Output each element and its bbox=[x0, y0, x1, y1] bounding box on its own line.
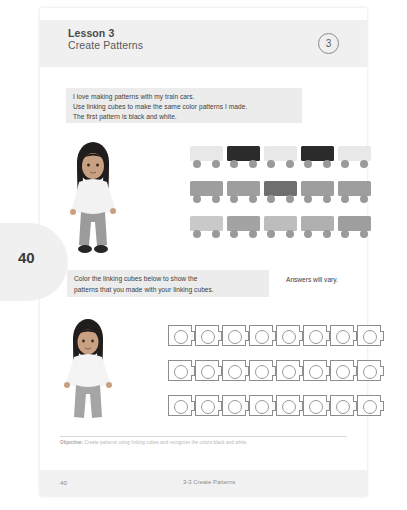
linking-cube[interactable] bbox=[195, 360, 219, 381]
train-wheel-icon bbox=[323, 230, 331, 238]
linking-cube[interactable] bbox=[303, 395, 327, 416]
linking-cube-hole-icon bbox=[201, 330, 215, 344]
instruction-line: Use linking cubes to make the same color… bbox=[73, 104, 247, 111]
train-wheel-icon bbox=[360, 195, 368, 203]
train-wheel-icon bbox=[267, 160, 275, 168]
linking-cube-hole-icon bbox=[201, 400, 215, 414]
train-car bbox=[301, 181, 334, 205]
train-car-body bbox=[264, 216, 297, 231]
linking-cube[interactable] bbox=[330, 395, 354, 416]
instruction-line: patterns that you made with your linking… bbox=[74, 287, 214, 294]
linking-cube[interactable] bbox=[195, 325, 219, 346]
page-tab-number: 40 bbox=[18, 249, 35, 266]
linking-cube[interactable] bbox=[303, 360, 327, 381]
train-car bbox=[264, 146, 297, 170]
instruction-line: The first pattern is black and white. bbox=[73, 114, 177, 121]
train-car bbox=[338, 216, 371, 240]
train-wheel-icon bbox=[193, 230, 201, 238]
train-car-body bbox=[190, 216, 223, 231]
linking-cube[interactable] bbox=[276, 325, 300, 346]
objective-prefix: Objective: bbox=[60, 440, 83, 445]
train-wheel-icon bbox=[323, 160, 331, 168]
girl-illustration-bottom bbox=[58, 314, 118, 418]
train-car-body bbox=[227, 146, 260, 161]
train-wheel-icon bbox=[304, 195, 312, 203]
page-title: Lesson 3 bbox=[68, 27, 114, 39]
linking-cube-hole-icon bbox=[363, 365, 377, 379]
train-wheel-icon bbox=[249, 160, 257, 168]
train-car-body bbox=[227, 181, 260, 196]
train-car-body bbox=[301, 216, 334, 231]
linking-cube-hole-icon bbox=[228, 400, 242, 414]
linking-cube[interactable] bbox=[303, 325, 327, 346]
linking-cube[interactable] bbox=[357, 395, 381, 416]
train-wheel-icon bbox=[249, 195, 257, 203]
train-car-body bbox=[227, 216, 260, 231]
train-wheel-icon bbox=[286, 230, 294, 238]
train-wheel-icon bbox=[193, 160, 201, 168]
linking-cube-hole-icon bbox=[336, 330, 350, 344]
train-car bbox=[190, 216, 223, 240]
footer-page-number: 40 bbox=[60, 479, 67, 486]
train-car-body bbox=[264, 146, 297, 161]
linking-cube[interactable] bbox=[249, 395, 273, 416]
linking-cube-hole-icon bbox=[174, 365, 188, 379]
linking-cube[interactable] bbox=[249, 325, 273, 346]
linking-cube-hole-icon bbox=[282, 400, 296, 414]
train-car bbox=[338, 181, 371, 205]
objective-body: Create patterns using linking cubes and … bbox=[84, 440, 247, 445]
linking-cube[interactable] bbox=[357, 360, 381, 381]
linking-cube-hole-icon bbox=[282, 330, 296, 344]
linking-cube[interactable] bbox=[330, 360, 354, 381]
train-wheel-icon bbox=[230, 195, 238, 203]
linking-cube[interactable] bbox=[195, 395, 219, 416]
train-car bbox=[190, 146, 223, 170]
linking-cube[interactable] bbox=[168, 395, 192, 416]
linking-cube-hole-icon bbox=[336, 365, 350, 379]
linking-cube-hole-icon bbox=[336, 400, 350, 414]
linking-cube[interactable] bbox=[222, 360, 246, 381]
linking-cube-hole-icon bbox=[201, 365, 215, 379]
train-wheel-icon bbox=[286, 160, 294, 168]
linking-cube[interactable] bbox=[222, 395, 246, 416]
train-car bbox=[227, 146, 260, 170]
girl-illustration-top bbox=[62, 136, 124, 258]
train-car bbox=[301, 146, 334, 170]
train-car-body bbox=[190, 181, 223, 196]
linking-cube[interactable] bbox=[168, 360, 192, 381]
train-car-body bbox=[190, 146, 223, 161]
train-wheel-icon bbox=[360, 160, 368, 168]
train-wheel-icon bbox=[212, 160, 220, 168]
linking-cube-hole-icon bbox=[309, 365, 323, 379]
linking-cube-hole-icon bbox=[282, 365, 296, 379]
page-footer: 40 3-3 Create Patterns bbox=[40, 470, 367, 496]
train-wheel-icon bbox=[341, 195, 349, 203]
train-car bbox=[227, 216, 260, 240]
train-wheel-icon bbox=[323, 195, 331, 203]
linking-cube[interactable] bbox=[276, 360, 300, 381]
linking-cube[interactable] bbox=[222, 325, 246, 346]
linking-cube-hole-icon bbox=[363, 330, 377, 344]
linking-cube[interactable] bbox=[276, 395, 300, 416]
train-wheel-icon bbox=[341, 230, 349, 238]
linking-cube-knob-icon bbox=[380, 331, 384, 341]
linking-cube[interactable] bbox=[168, 325, 192, 346]
linking-cube-hole-icon bbox=[255, 365, 269, 379]
page-subtitle: Create Patterns bbox=[68, 39, 143, 51]
train-car-body bbox=[264, 181, 297, 196]
lesson-number-badge: 3 bbox=[318, 33, 339, 54]
linking-cube[interactable] bbox=[357, 325, 381, 346]
linking-cube[interactable] bbox=[330, 325, 354, 346]
linking-cube-hole-icon bbox=[174, 330, 188, 344]
train-wheel-icon bbox=[360, 230, 368, 238]
train-car bbox=[190, 181, 223, 205]
train-car bbox=[227, 181, 260, 205]
train-wheel-icon bbox=[267, 195, 275, 203]
worksheet-page: Lesson 3 Create Patterns 3 I love making… bbox=[40, 8, 367, 496]
linking-cube-hole-icon bbox=[255, 400, 269, 414]
instruction-box-bottom: Color the linking cubes below to show th… bbox=[67, 270, 269, 297]
train-wheel-icon bbox=[230, 160, 238, 168]
train-wheel-icon bbox=[267, 230, 275, 238]
linking-cube-hole-icon bbox=[228, 365, 242, 379]
linking-cube[interactable] bbox=[249, 360, 273, 381]
